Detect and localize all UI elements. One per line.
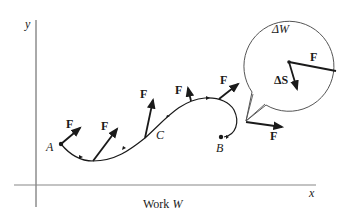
x-axis-label: x [308,186,315,200]
force-label-5: F [220,73,227,87]
point-c-label: C [156,128,165,142]
force-label-3: F [140,87,147,101]
direction-arrow-icon [206,96,210,100]
title-symbol: W [172,197,183,211]
force-vector-2 [93,129,117,161]
work-diagram: y x A B C F F F F F F ΔW F ΔS Work W [0,0,353,219]
inset-bubble [244,21,334,121]
diagram-title: Work W [143,197,183,211]
force-label-6: F [270,129,277,143]
point-b [219,135,223,139]
trajectory-curve [61,98,237,161]
point-b-label: B [216,141,224,155]
inset-displacement-label: ΔS [274,73,289,87]
inset-force-label: F [310,50,317,64]
point-a-label: A [45,140,54,154]
force-label-1: F [66,117,73,131]
force-vector-4 [188,88,191,101]
title-text: Work [143,197,172,211]
direction-arrow-icon [122,146,126,150]
force-vector-6 [246,122,282,127]
y-axis-label: y [24,17,31,31]
force-label-2: F [101,119,108,133]
force-label-4: F [175,83,182,97]
inset-work-label: ΔW [271,22,290,36]
